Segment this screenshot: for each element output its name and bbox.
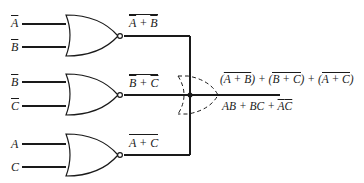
input-a-bar: A xyxy=(11,17,18,30)
circuit-wiring xyxy=(0,0,364,183)
output-label-1: A + B xyxy=(129,17,158,30)
input-c: C xyxy=(11,161,19,174)
nor-gate-2 xyxy=(66,74,118,115)
output-label-3: A + C xyxy=(129,137,158,150)
input-b-bar-2: B xyxy=(11,76,18,89)
simplified-expression: AB + BC + AC xyxy=(222,100,292,113)
output-label-2: B + C xyxy=(129,77,158,90)
input-b-bar: B xyxy=(11,41,18,54)
logic-diagram: A B B C A C A + B B + C A + C (A + B) + … xyxy=(0,0,364,183)
nor-gate-1 xyxy=(66,15,118,56)
input-c-bar: C xyxy=(11,100,19,113)
result-expression: (A + B) + (B + C) + (A + C) xyxy=(220,73,354,86)
nor-gate-3 xyxy=(66,134,118,176)
input-a: A xyxy=(11,138,18,151)
